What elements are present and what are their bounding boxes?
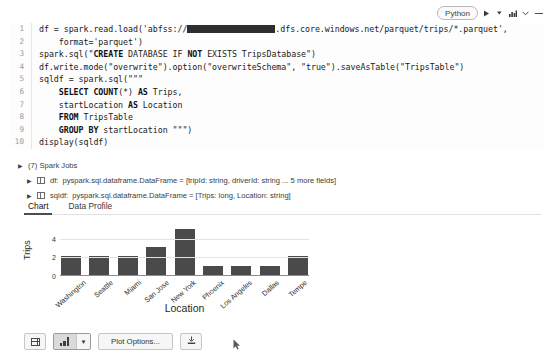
spark-jobs-label: (7) Spark Jobs bbox=[28, 161, 77, 170]
redacted-storage-account-icon bbox=[187, 25, 275, 33]
plot-area: 024 bbox=[60, 226, 309, 276]
line-number: 7 bbox=[10, 99, 31, 112]
bar[interactable] bbox=[89, 256, 109, 275]
line-number: 10 bbox=[10, 136, 31, 149]
spark-jobs-row[interactable]: ▶ (7) Spark Jobs bbox=[18, 158, 541, 173]
bar[interactable] bbox=[288, 256, 308, 275]
caret-right-icon[interactable]: ▶ bbox=[27, 193, 32, 199]
bar[interactable] bbox=[260, 266, 280, 275]
gridline bbox=[60, 257, 309, 258]
dataframe-name: df: bbox=[50, 176, 58, 185]
code-line-text[interactable]: startLocation AS Location bbox=[31, 99, 543, 112]
code-line: 9 GROUP BY startLocation """) bbox=[10, 124, 543, 137]
x-axis-tick-label: Dallas bbox=[260, 278, 281, 298]
y-axis-tick-label: 0 bbox=[52, 273, 56, 280]
code-editor[interactable]: 1 df = spark.read.load('abfss://.dfs.cor… bbox=[10, 23, 543, 149]
chart-toolbar: ▼ Plot Options... bbox=[24, 333, 202, 350]
output-tabs: Chart Data Profile bbox=[24, 200, 541, 215]
tab-chart[interactable]: Chart bbox=[24, 201, 52, 214]
x-axis-tick-label: Miami bbox=[122, 278, 142, 297]
bar-chart: Trips 024 WashingtonSeattleMiamiSan Jose… bbox=[24, 226, 324, 326]
bar-chart-icon[interactable] bbox=[508, 6, 517, 20]
line-number: 1 bbox=[10, 23, 31, 36]
table-icon bbox=[37, 177, 45, 184]
bar[interactable] bbox=[231, 266, 251, 275]
table-icon bbox=[37, 192, 45, 199]
line-number: 6 bbox=[10, 86, 31, 99]
line-number: 5 bbox=[10, 73, 31, 86]
line-number: 9 bbox=[10, 124, 31, 137]
code-line: 10 display(sqldf) bbox=[10, 136, 543, 149]
line-number: 8 bbox=[10, 111, 31, 124]
code-line-text[interactable]: df.write.mode("overwrite").option("overw… bbox=[31, 61, 543, 74]
x-axis-title: Location bbox=[60, 302, 309, 314]
y-axis-tick-label: 4 bbox=[52, 235, 56, 242]
code-line: 5 sqldf = spark.sql(""" bbox=[10, 73, 543, 86]
x-axis-tick-label: San Jose bbox=[142, 278, 171, 304]
code-line: 1 df = spark.read.load('abfss://.dfs.cor… bbox=[10, 23, 543, 36]
bar[interactable] bbox=[203, 266, 223, 275]
line-number: 4 bbox=[10, 61, 31, 74]
line-number: 3 bbox=[10, 48, 31, 61]
code-line: 7 startLocation AS Location bbox=[10, 99, 543, 112]
bar[interactable] bbox=[175, 229, 195, 275]
caret-down-icon[interactable] bbox=[495, 6, 504, 20]
table-view-button[interactable] bbox=[24, 333, 46, 350]
x-axis-tick-label: Seattle bbox=[92, 278, 115, 299]
code-line: 4 df.write.mode("overwrite").option("ove… bbox=[10, 61, 543, 74]
code-line: 2 format='parquet') bbox=[10, 36, 543, 49]
bar[interactable] bbox=[61, 256, 81, 275]
cell-toolbar: Python bbox=[437, 5, 543, 21]
bar-chart-icon[interactable] bbox=[54, 334, 76, 349]
minus-icon[interactable] bbox=[534, 6, 543, 20]
results-metadata: ▶ (7) Spark Jobs ▶ df: pyspark.sql.dataf… bbox=[18, 158, 541, 203]
dataframe-schema: pyspark.sql.dataframe.DataFrame = [tripI… bbox=[62, 176, 336, 185]
x-axis-tick-label: Phoenix bbox=[200, 278, 226, 302]
table-icon bbox=[31, 338, 40, 346]
chart-view-button[interactable]: ▼ bbox=[53, 333, 91, 350]
code-line-text[interactable]: spark.sql("CREATE DATABASE IF NOT EXISTS… bbox=[31, 48, 543, 61]
bar[interactable] bbox=[146, 247, 166, 275]
caret-right-icon[interactable]: ▶ bbox=[27, 178, 32, 184]
code-line: 3 spark.sql("CREATE DATABASE IF NOT EXIS… bbox=[10, 48, 543, 61]
code-line: 6 SELECT COUNT(*) AS Trips, bbox=[10, 86, 543, 99]
caret-down-icon[interactable]: ▼ bbox=[76, 334, 90, 349]
code-line-text[interactable]: sqldf = spark.sql(""" bbox=[31, 73, 543, 86]
x-axis-line bbox=[60, 275, 309, 276]
code-line: 8 FROM TripsTable bbox=[10, 111, 543, 124]
plot-options-button[interactable]: Plot Options... bbox=[98, 333, 173, 350]
caret-right-icon[interactable]: ▶ bbox=[18, 163, 23, 169]
code-line-1-prefix: df = spark.read.load('abfss:// bbox=[39, 24, 187, 34]
line-number: 2 bbox=[10, 36, 31, 49]
dataframe-row[interactable]: ▶ df: pyspark.sql.dataframe.DataFrame = … bbox=[18, 173, 541, 188]
download-icon bbox=[187, 336, 196, 347]
bar[interactable] bbox=[118, 256, 138, 275]
code-line-text[interactable]: SELECT COUNT(*) AS Trips, bbox=[31, 86, 543, 99]
tab-data-profile[interactable]: Data Profile bbox=[64, 201, 116, 214]
chevron-down-icon[interactable] bbox=[521, 6, 530, 20]
code-line-1-suffix: .dfs.core.windows.net/parquet/trips/*.pa… bbox=[275, 24, 507, 34]
y-axis-tick-label: 2 bbox=[52, 254, 56, 261]
code-line-text[interactable]: FROM TripsTable bbox=[31, 111, 543, 124]
code-line-text[interactable]: df = spark.read.load('abfss://.dfs.core.… bbox=[31, 23, 543, 36]
code-line-text[interactable]: GROUP BY startLocation """) bbox=[31, 124, 543, 137]
x-axis-tick-label: New York bbox=[169, 278, 198, 305]
bar-chart-glyph bbox=[60, 337, 70, 346]
code-line-text[interactable]: display(sqldf) bbox=[31, 136, 543, 149]
bar-series bbox=[60, 226, 309, 275]
notebook-cell-output: Python 1 df = spark.read.load('abfss://.… bbox=[0, 0, 547, 363]
y-axis-title: Trips bbox=[22, 240, 32, 260]
run-icon[interactable] bbox=[482, 6, 491, 20]
language-badge[interactable]: Python bbox=[437, 6, 478, 20]
dataframe-schema: pyspark.sql.dataframe.DataFrame = [Trips… bbox=[72, 191, 291, 200]
gridline bbox=[60, 239, 309, 240]
download-button[interactable] bbox=[180, 333, 202, 350]
x-axis-tick-label: Tempe bbox=[287, 278, 309, 299]
dataframe-name: sqldf: bbox=[50, 191, 68, 200]
code-line-text[interactable]: format='parquet') bbox=[31, 36, 543, 49]
